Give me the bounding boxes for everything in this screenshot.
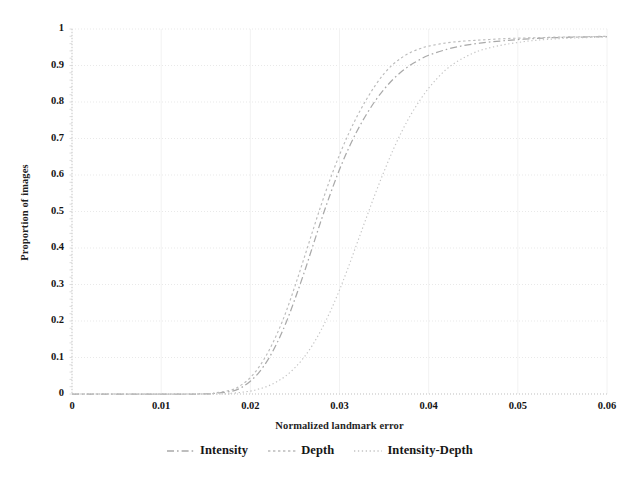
chart-figure: 00.10.20.30.40.50.60.70.80.91 00.010.020… [0, 0, 640, 485]
y-axis-title: Proportion of images [19, 133, 30, 293]
y-tick-label: 1 [18, 22, 64, 33]
x-tick-label: 0 [42, 400, 102, 411]
x-tick-label: 0.03 [310, 400, 370, 411]
x-tick-label: 0.02 [220, 400, 280, 411]
plot-canvas [0, 0, 640, 485]
y-tick-label: 0.9 [18, 59, 64, 70]
legend-item[interactable]: Intensity-Depth [354, 443, 473, 458]
legend-label: Intensity-Depth [387, 443, 473, 458]
x-tick-label: 0.06 [577, 400, 637, 411]
y-tick-label: 0.2 [18, 314, 64, 325]
legend-item[interactable]: Intensity [167, 443, 248, 458]
legend-label: Intensity [200, 443, 248, 458]
y-tick-label: 0 [18, 387, 64, 398]
legend-line-swatch [268, 446, 296, 456]
legend-label: Depth [301, 443, 334, 458]
y-tick-label: 0.1 [18, 351, 64, 362]
x-tick-label: 0.05 [488, 400, 548, 411]
gridlines [72, 29, 607, 394]
chart-legend: IntensityDepthIntensity-Depth [0, 443, 640, 458]
x-tick-label: 0.04 [399, 400, 459, 411]
legend-line-swatch [167, 446, 195, 456]
legend-item[interactable]: Depth [268, 443, 334, 458]
x-axis-title: Normalized landmark error [0, 420, 640, 431]
x-tick-label: 0.01 [131, 400, 191, 411]
legend-line-swatch [354, 446, 382, 456]
y-tick-label: 0.8 [18, 95, 64, 106]
